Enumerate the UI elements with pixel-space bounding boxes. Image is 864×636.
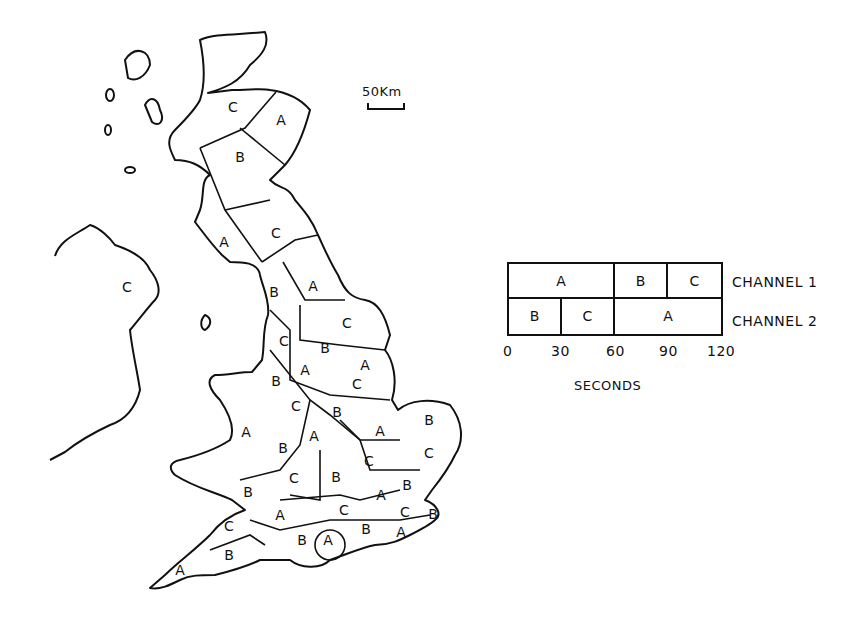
channel-chart: A B C B C A (507, 262, 723, 336)
channel-1-row: A B C (509, 264, 721, 299)
ch2-segment-b: B (509, 299, 562, 334)
ch2-segment-a: A (615, 299, 721, 334)
channel-1-label: CHANNEL 1 (732, 274, 817, 290)
scale-bar (367, 103, 405, 110)
ch1-segment-b: B (615, 264, 668, 297)
axis-label-seconds: SECONDS (574, 378, 641, 393)
channel-2-row: B C A (509, 299, 721, 334)
tick-0: 0 (503, 343, 512, 359)
ch2-segment-c: C (562, 299, 615, 334)
channel-2-label: CHANNEL 2 (732, 313, 817, 329)
ch1-segment-c: C (668, 264, 721, 297)
scale-bar-label: 50Km (362, 84, 402, 99)
uk-map (0, 0, 500, 636)
tick-60: 60 (606, 343, 625, 359)
tick-90: 90 (659, 343, 678, 359)
ch1-segment-a: A (509, 264, 615, 297)
tick-120: 120 (707, 343, 735, 359)
tick-30: 30 (551, 343, 570, 359)
